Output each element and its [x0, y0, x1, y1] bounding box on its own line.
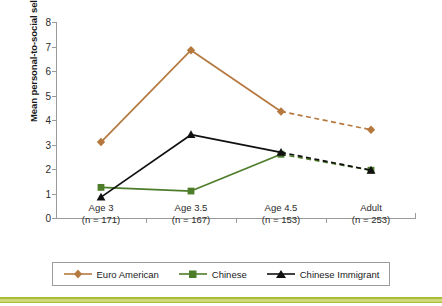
bottom-accent-bar [0, 297, 442, 303]
legend-item[interactable]: Euro American [63, 268, 159, 280]
series-line-segment [191, 154, 281, 191]
legend-label: Chinese Immigrant [300, 269, 380, 280]
y-tick-label: 0 [45, 213, 51, 224]
square-data-point [188, 188, 195, 195]
x-category-name: Age 4.5 [265, 202, 298, 213]
x-tick-mark [326, 218, 327, 223]
y-tick-label: 3 [45, 139, 51, 150]
triangle-data-point [97, 193, 106, 201]
y-tick-label: 8 [45, 17, 51, 28]
x-category-name: Age 3.5 [175, 202, 208, 213]
series-line-segment [101, 135, 191, 197]
legend-item[interactable]: Chinese [178, 268, 247, 280]
x-category-sample-size: (n = 167) [172, 214, 210, 226]
triangle-marker-icon [266, 268, 296, 280]
y-tick-label: 4 [45, 115, 51, 126]
square-marker-icon [178, 268, 208, 280]
x-category-sample-size: (n = 171) [82, 214, 120, 226]
y-tick-label: 1 [45, 188, 51, 199]
y-tick-mark [52, 218, 56, 219]
legend-item[interactable]: Chinese Immigrant [266, 268, 380, 280]
x-category-name: Adult [360, 202, 382, 213]
y-tick-label: 5 [45, 90, 51, 101]
x-tick-mark [236, 218, 237, 223]
series-lines [56, 22, 416, 218]
legend-label: Chinese [212, 269, 247, 280]
series-line-segment [281, 152, 371, 170]
plot-area: 012345678 [56, 22, 416, 218]
series-line-segment [191, 50, 281, 111]
x-tick-mark [146, 218, 147, 223]
diamond-data-point [367, 126, 375, 134]
series-line-segment [101, 50, 191, 142]
square-data-point [98, 184, 105, 191]
x-category-label: Adult(n = 253) [352, 202, 390, 226]
series-line-segment [281, 111, 371, 129]
x-category-label: Age 3.5(n = 167) [172, 202, 210, 226]
series-line-segment [191, 135, 281, 153]
y-tick-label: 6 [45, 66, 51, 77]
x-category-sample-size: (n = 253) [352, 214, 390, 226]
chart-figure: Mean personal-to-social self-description… [0, 0, 442, 306]
diamond-marker-icon [63, 268, 93, 280]
x-category-label: Age 4.5(n = 153) [262, 202, 300, 226]
y-tick-label: 7 [45, 41, 51, 52]
triangle-data-point [187, 130, 196, 138]
x-category-name: Age 3 [89, 202, 114, 213]
x-category-sample-size: (n = 153) [262, 214, 300, 226]
chart-legend: Euro American Chinese Chinese Immigrant [52, 262, 390, 286]
y-axis-title: Mean personal-to-social self-description… [28, 0, 44, 122]
x-category-label: Age 3(n = 171) [82, 202, 120, 226]
y-tick-label: 2 [45, 164, 51, 175]
legend-label: Euro American [97, 269, 159, 280]
